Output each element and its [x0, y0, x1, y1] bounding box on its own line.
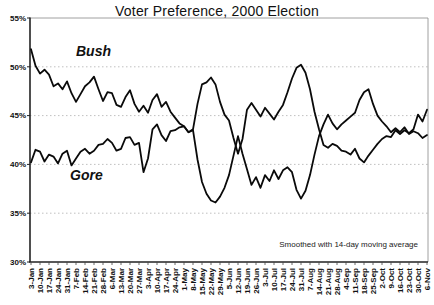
x-tick-label: 24-Apr	[171, 268, 180, 293]
x-tick-label: 13-Mar	[117, 268, 126, 294]
x-tick-label: 7-Aug	[306, 268, 315, 291]
y-tick-label: 55%	[10, 14, 26, 23]
x-tick-label: 25-Sep	[369, 268, 378, 294]
x-tick-label: 19-Jun	[243, 268, 252, 294]
x-tick-label: 14-Aug	[315, 268, 324, 295]
x-tick-label: 3-Jul	[261, 268, 270, 287]
x-tick-label: 20-Mar	[126, 268, 135, 294]
x-tick-label: 11-Sep	[351, 268, 360, 294]
chart-canvas: 30%35%40%45%50%55%3-Jan10-Jan17-Jan24-Ja…	[0, 0, 434, 305]
x-tick-label: 10-Jan	[36, 268, 45, 293]
x-tick-label: 24-Jan	[54, 268, 63, 293]
x-tick-label: 12-Jun	[234, 268, 243, 294]
x-tick-label: 22-May	[207, 267, 216, 295]
x-tick-label: 6-Mar	[108, 268, 117, 289]
x-tick-label: 17-Jan	[45, 268, 54, 293]
x-tick-label: 21-Aug	[324, 268, 333, 295]
x-tick-label: 17-Apr	[162, 268, 171, 293]
x-tick-label: 7-Feb	[72, 268, 81, 289]
x-tick-label: 28-Aug	[333, 268, 342, 295]
x-tick-label: 2-Oct	[378, 268, 387, 289]
x-tick-label: 1-May	[180, 267, 189, 290]
x-tick-label: 18-Sep	[360, 268, 369, 294]
x-tick-label: 14-Feb	[81, 268, 90, 294]
x-tick-label: 30-Oct	[414, 268, 423, 293]
x-tick-label: 24-Jul	[288, 268, 297, 291]
x-tick-label: 27-Mar	[135, 268, 144, 294]
y-tick-label: 30%	[10, 258, 26, 267]
x-tick-label: 31-Jan	[63, 268, 72, 293]
series-line-bush	[31, 49, 427, 162]
x-tick-label: 10-Apr	[153, 268, 162, 293]
y-tick-label: 50%	[10, 63, 26, 72]
y-tick-label: 40%	[10, 160, 26, 169]
x-tick-label: 26-Jun	[252, 268, 261, 294]
x-tick-label: 3-Jan	[27, 268, 36, 289]
chart: Voter Preference, 2000 Election 30%35%40…	[0, 0, 434, 305]
x-tick-label: 23-Oct	[405, 268, 414, 293]
x-tick-label: 9-Oct	[387, 268, 396, 289]
x-tick-label: 31-Jul	[297, 268, 306, 291]
x-tick-label: 5-Jun	[225, 268, 234, 289]
y-tick-label: 45%	[10, 111, 26, 120]
x-tick-label: 28-Feb	[99, 268, 108, 294]
series-label-gore: Gore	[70, 167, 103, 183]
x-tick-label: 3-Apr	[144, 268, 153, 289]
x-tick-label: 8-May	[189, 267, 198, 290]
x-tick-label: 6-Nov	[423, 267, 432, 290]
x-tick-label: 17-Jul	[279, 268, 288, 291]
x-tick-label: 10-Jul	[270, 268, 279, 291]
smoothing-annotation: Smoothed with 14-day moving average	[279, 240, 418, 249]
y-tick-label: 35%	[10, 209, 26, 218]
x-tick-label: 21-Feb	[90, 268, 99, 294]
x-tick-label: 29-May	[216, 267, 225, 295]
series-line-gore	[31, 89, 427, 202]
x-tick-label: 4-Sep	[342, 268, 351, 290]
x-tick-label: 16-Oct	[396, 268, 405, 293]
x-tick-label: 15-May	[198, 267, 207, 295]
series-label-bush: Bush	[76, 43, 111, 59]
